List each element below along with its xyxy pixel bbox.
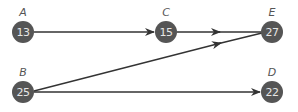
node-b-value: 25: [17, 86, 30, 99]
node-e-label: E: [269, 6, 276, 19]
node-d-value: 22: [266, 86, 279, 99]
edge-b-e: [34, 33, 262, 91]
node-a-label: A: [18, 6, 27, 19]
node-e: E 27: [261, 6, 283, 43]
node-c-value: 15: [160, 26, 173, 39]
graph-diagram: A 13 C 15 E 27 B 25 D 22: [0, 0, 298, 112]
node-e-value: 27: [266, 26, 279, 39]
node-d-label: D: [268, 66, 276, 79]
graph-svg: A 13 C 15 E 27 B 25 D 22: [0, 0, 298, 112]
node-b: B 25: [12, 66, 34, 103]
node-b-label: B: [19, 66, 27, 79]
node-c-label: C: [162, 6, 170, 19]
node-a-value: 13: [17, 26, 30, 39]
node-c: C 15: [155, 6, 177, 43]
node-a: A 13: [12, 6, 34, 43]
node-d: D 22: [261, 66, 283, 103]
